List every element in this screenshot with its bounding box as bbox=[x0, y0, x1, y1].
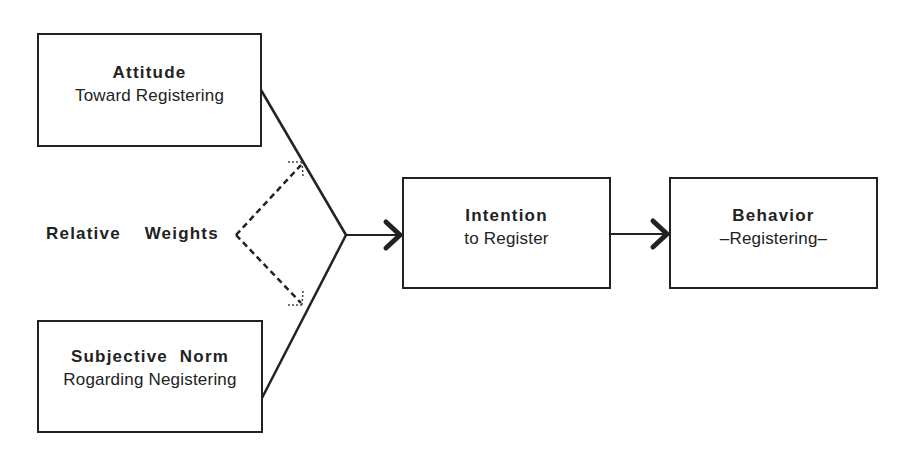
subjective-norm-title: Subjective Norm bbox=[71, 346, 229, 368]
intention-title: Intention bbox=[465, 205, 548, 227]
relative-weights-label: Relative Weights bbox=[46, 224, 219, 244]
subjective-norm-box: Subjective Norm Rogarding Negistering bbox=[37, 320, 263, 433]
behavior-subtitle: –Registering– bbox=[720, 227, 828, 251]
attitude-title: Attitude bbox=[113, 62, 187, 84]
intention-subtitle: to Register bbox=[464, 227, 548, 251]
attitude-subtitle: Toward Registering bbox=[75, 84, 224, 108]
subjective-norm-subtitle: Rogarding Negistering bbox=[63, 368, 236, 392]
attitude-to-junction-line bbox=[261, 90, 346, 235]
intention-box: Intention to Register bbox=[402, 177, 611, 289]
weights-to-norm-dashed-line bbox=[236, 235, 301, 303]
norm-to-junction-line bbox=[262, 235, 346, 398]
weights-attitude-arrowhead-icon bbox=[288, 162, 303, 176]
behavior-box: Behavior –Registering– bbox=[669, 177, 878, 289]
behavior-title: Behavior bbox=[732, 205, 814, 227]
weights-to-attitude-dashed-line bbox=[236, 165, 301, 235]
attitude-box: Attitude Toward Registering bbox=[37, 33, 262, 147]
